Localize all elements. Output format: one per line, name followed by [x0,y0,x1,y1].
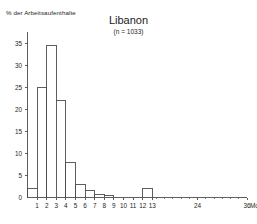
x-axis: 123456789101112132436 [28,198,251,209]
bar [85,191,95,198]
y-tick-label: 5 [18,172,22,179]
x-tick-label: 3 [55,202,59,209]
y-tick-label: 15 [15,128,23,135]
y-tick-label: 10 [15,150,23,157]
bar [37,88,47,198]
x-tick-label: 10 [120,202,128,209]
y-tick-label: 30 [15,62,23,69]
x-tick-label: 2 [45,202,49,209]
bar [66,162,76,197]
bar [47,46,57,198]
x-tick-label: 13 [149,202,157,209]
x-tick-label: 4 [64,202,68,209]
x-tick-label: 8 [103,202,107,209]
bar [143,189,153,198]
x-tick-label: 11 [130,202,137,209]
x-axis-unit-label: Monate [250,202,257,209]
bar-series [28,46,153,198]
y-tick-label: 35 [15,40,23,47]
x-tick-label: 5 [74,202,78,209]
x-tick-label: 7 [93,202,97,209]
x-tick-label: 6 [83,202,87,209]
x-tick-label: 24 [194,202,202,209]
y-axis: 05101520253035 [15,32,28,201]
x-tick-label: 1 [35,202,39,209]
bar [56,101,66,198]
chart-container: % der Arbeitsaufenthalte Libanon (n = 10… [0,0,257,224]
y-tick-label: 20 [15,106,23,113]
x-tick-label: 12 [139,202,147,209]
plot-area: 05101520253035 123456789101112132436 Mon… [0,0,257,224]
bar [104,196,114,198]
y-tick-label: 0 [18,194,22,201]
bar [95,195,105,198]
x-tick-label: 9 [112,202,116,209]
bar [28,189,38,198]
bar [76,184,86,197]
y-tick-label: 25 [15,84,23,91]
